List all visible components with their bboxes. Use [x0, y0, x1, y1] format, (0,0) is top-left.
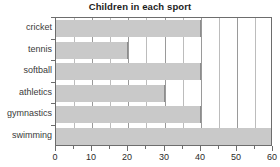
bar-row [56, 42, 271, 59]
value-tick-label-50: 50 [224, 152, 248, 163]
value-tick-major [55, 146, 56, 151]
value-tick-minor [182, 146, 183, 149]
value-tick-label-10: 10 [79, 152, 103, 163]
value-tick-major [200, 146, 201, 151]
value-tick-minor [145, 146, 146, 149]
value-tick-label-20: 20 [115, 152, 139, 163]
value-tick-label-0: 0 [43, 152, 67, 163]
bar-athletics [56, 85, 165, 102]
category-label-softball: softball [0, 65, 52, 76]
bar-row [56, 106, 271, 123]
chart-title: Children in each sport [0, 0, 280, 14]
value-tick-minor [73, 146, 74, 149]
value-tick-minor [218, 146, 219, 149]
category-axis-labels: crickettennissoftballathleticsgymnastics… [0, 17, 52, 146]
bar-chart: Children in each sport crickettennissoft… [0, 0, 280, 167]
value-tick-label-30: 30 [152, 152, 176, 163]
category-label-tennis: tennis [0, 44, 52, 55]
value-tick-label-60: 60 [260, 152, 280, 163]
bar-row [56, 85, 271, 102]
bar-series [56, 18, 271, 145]
bar-swimming [56, 128, 272, 145]
value-tick-major [164, 146, 165, 151]
bar-softball [56, 63, 201, 80]
bar-cricket [56, 20, 201, 37]
bar-gymnastics [56, 106, 201, 123]
value-tick-major [236, 146, 237, 151]
bar-row [56, 63, 271, 80]
bar-row [56, 128, 271, 145]
value-axis: 0102030405060 [55, 146, 272, 167]
bar-tennis [56, 42, 128, 59]
value-tick-major [127, 146, 128, 151]
plot-area [55, 17, 272, 146]
category-label-gymnastics: gymnastics [0, 108, 52, 119]
value-tick-label-40: 40 [188, 152, 212, 163]
value-tick-major [272, 146, 273, 151]
value-tick-major [91, 146, 92, 151]
value-tick-minor [109, 146, 110, 149]
bar-row [56, 20, 271, 37]
value-tick-minor [254, 146, 255, 149]
category-label-athletics: athletics [0, 87, 52, 98]
category-label-swimming: swimming [0, 130, 52, 141]
category-label-cricket: cricket [0, 22, 52, 33]
